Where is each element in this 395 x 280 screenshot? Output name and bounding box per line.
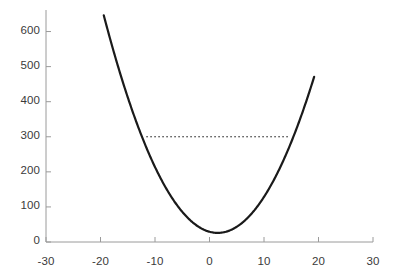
x-tick-label: 0: [190, 255, 230, 267]
x-tick-label: 30: [353, 255, 393, 267]
chart-canvas: 0100200300400500600 -30-20-100102030: [0, 0, 395, 280]
x-tick-label: -30: [26, 255, 66, 267]
x-tick-label: -20: [81, 255, 121, 267]
data-curve: [104, 15, 314, 233]
y-tick-label: 300: [6, 129, 40, 141]
x-axis-ticks: [46, 237, 373, 242]
y-axis-ticks: [46, 32, 51, 242]
y-tick-label: 500: [6, 59, 40, 71]
y-tick-label: 0: [6, 234, 40, 246]
y-tick-label: 100: [6, 199, 40, 211]
y-tick-label: 400: [6, 94, 40, 106]
x-tick-label: -10: [135, 255, 175, 267]
x-tick-label: 20: [299, 255, 339, 267]
y-tick-label: 600: [6, 24, 40, 36]
x-tick-label: 10: [244, 255, 284, 267]
plot-area: [0, 0, 395, 280]
y-tick-label: 200: [6, 164, 40, 176]
data-series-layer: [104, 15, 314, 233]
